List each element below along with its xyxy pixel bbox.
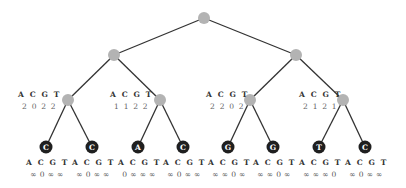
- label-values: ∞ ∞ ∞ 0: [299, 171, 341, 179]
- leaf-base-label: C: [180, 143, 186, 152]
- internal-node-n1R: [290, 49, 302, 61]
- leaf-base-label: G: [225, 143, 231, 152]
- leaf-base-label: C: [362, 143, 368, 152]
- internal-label-n2d: A C G T 2 1 2 1: [299, 91, 342, 110]
- label-header: A C G T: [208, 159, 250, 167]
- internal-label-n2c: A C G T 2 2 0 2: [206, 91, 249, 110]
- leaf-label-4: A C G T ∞ 0 ∞ ∞: [163, 159, 205, 178]
- leaf-label-6: A C G T ∞ ∞ 0 ∞: [253, 159, 295, 178]
- label-header: A C G T: [163, 159, 205, 167]
- label-header: A C G T: [118, 159, 160, 167]
- tree-edge: [160, 100, 183, 147]
- internal-label-n2a: A C G T 2 0 2 2: [18, 91, 61, 110]
- leaf-label-5: A C G T ∞ ∞ 0 ∞: [208, 159, 250, 178]
- leaf-label-2: A C G T ∞ 0 ∞ ∞: [72, 159, 114, 178]
- leaf-label-3: A C G T 0 ∞ ∞ ∞: [118, 159, 160, 178]
- internal-node-root: [198, 12, 210, 24]
- label-header: A C G T: [26, 159, 68, 167]
- leaf-label-1: A C G T ∞ 0 ∞ ∞: [26, 159, 68, 178]
- tree-edge: [68, 100, 92, 147]
- tree-edge: [343, 100, 365, 147]
- leaf-base-label: A: [134, 143, 141, 152]
- tree-edge: [204, 18, 296, 55]
- label-header: A C G T: [253, 159, 295, 167]
- internal-node-n2b: [154, 94, 166, 106]
- leaf-base-label: C: [89, 143, 95, 152]
- label-values: ∞ 0 ∞ ∞: [72, 171, 114, 179]
- parsimony-tree-diagram: CCACGGTC A C G T 2 0 2 2 A C G T 1 1 2 2…: [0, 0, 406, 188]
- internal-node-n2a: [62, 94, 74, 106]
- label-values: ∞ 0 ∞ ∞: [163, 171, 205, 179]
- label-header: A C G T: [299, 159, 341, 167]
- tree-nodes: CCACGGTC: [40, 12, 372, 154]
- tree-edge: [250, 55, 296, 100]
- label-header: A C G T: [18, 91, 61, 99]
- leaf-base-label: G: [270, 143, 276, 152]
- leaf-label-7: A C G T ∞ ∞ ∞ 0: [299, 159, 341, 178]
- label-header: A C G T: [206, 91, 249, 99]
- label-values: ∞ ∞ 0 ∞: [253, 171, 295, 179]
- label-header: A C G T: [110, 91, 153, 99]
- tree-edges: [46, 18, 365, 147]
- label-values: 2 1 2 1: [299, 103, 342, 111]
- label-values: ∞ 0 ∞ ∞: [345, 171, 387, 179]
- internal-node-n1L: [108, 49, 120, 61]
- internal-label-n2b: A C G T 1 1 2 2: [110, 91, 153, 110]
- label-values: ∞ 0 ∞ ∞: [26, 171, 68, 179]
- label-header: A C G T: [72, 159, 114, 167]
- label-header: A C G T: [299, 91, 342, 99]
- tree-edge: [68, 55, 114, 100]
- tree-edge: [250, 100, 273, 147]
- label-values: 1 1 2 2: [110, 103, 153, 111]
- label-header: A C G T: [345, 159, 387, 167]
- leaf-base-label: C: [43, 143, 49, 152]
- label-values: 0 ∞ ∞ ∞: [118, 171, 160, 179]
- label-values: 2 2 0 2: [206, 103, 249, 111]
- leaf-base-label: T: [316, 143, 322, 152]
- label-values: 2 0 2 2: [18, 103, 61, 111]
- tree-edge: [114, 18, 204, 55]
- label-values: ∞ ∞ 0 ∞: [208, 171, 250, 179]
- leaf-label-8: A C G T ∞ 0 ∞ ∞: [345, 159, 387, 178]
